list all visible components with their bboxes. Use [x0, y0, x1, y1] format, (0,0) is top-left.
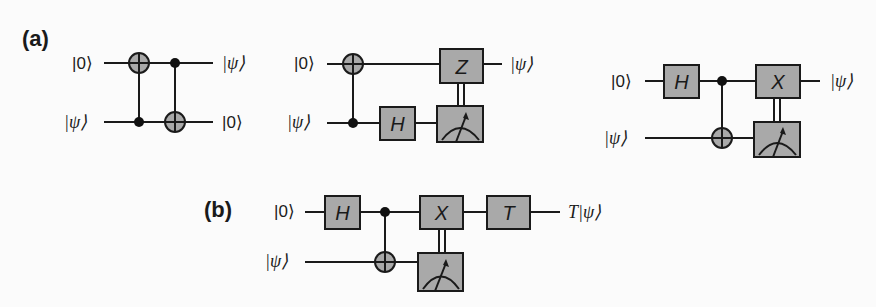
- control-dot-icon: [170, 58, 180, 68]
- output-t-ket-psi: T|ψ⟩: [568, 202, 601, 222]
- input-ket-0: |0⟩: [611, 72, 632, 91]
- input-ket-psi: |ψ⟩: [287, 112, 310, 132]
- panel-label-b: (b): [204, 197, 232, 222]
- quantum-circuit-figure: (a) |0⟩ |ψ⟩ |ψ⟩ |0⟩: [0, 0, 876, 307]
- input-ket-0: |0⟩: [72, 54, 93, 73]
- output-ket-0: |0⟩: [222, 113, 243, 132]
- xor-target-icon: [375, 252, 395, 272]
- circuit-x-correction: |0⟩ |ψ⟩ H X |ψ⟩: [604, 65, 853, 157]
- control-dot-icon: [134, 117, 144, 127]
- input-ket-0: |0⟩: [294, 54, 315, 73]
- panel-label-a: (a): [22, 26, 49, 51]
- x-gate-label: X: [434, 202, 449, 224]
- t-gate-label: T: [502, 202, 516, 224]
- measurement-meter-icon: [754, 122, 800, 157]
- circuit-swap-teleport: |0⟩ |ψ⟩ |ψ⟩ |0⟩: [64, 53, 245, 132]
- measurement-meter-icon: [437, 106, 483, 142]
- input-ket-0: |0⟩: [274, 202, 295, 221]
- xor-target-icon: [712, 128, 732, 148]
- xor-target-icon: [165, 112, 185, 132]
- z-gate-label: Z: [454, 56, 468, 78]
- control-dot-icon: [380, 207, 390, 217]
- hadamard-gate-label: H: [335, 202, 350, 224]
- input-ket-psi: |ψ⟩: [64, 112, 87, 132]
- output-ket-psi: |ψ⟩: [222, 53, 245, 73]
- control-dot-icon: [717, 76, 727, 86]
- hadamard-gate-label: H: [674, 71, 689, 93]
- measurement-meter-icon: [418, 253, 463, 291]
- circuit-t-gate-teleport: |0⟩ |ψ⟩ H X: [265, 196, 601, 291]
- hadamard-gate-label: H: [390, 113, 405, 135]
- figure-canvas: (a) |0⟩ |ψ⟩ |ψ⟩ |0⟩: [0, 0, 876, 307]
- circuit-z-correction: |0⟩ |ψ⟩ H Z |ψ⟩: [287, 49, 533, 142]
- input-ket-psi: |ψ⟩: [265, 251, 288, 271]
- x-gate-label: X: [770, 71, 785, 93]
- output-ket-psi: |ψ⟩: [510, 54, 533, 74]
- input-ket-psi: |ψ⟩: [604, 128, 627, 148]
- xor-target-icon: [129, 53, 149, 73]
- control-dot-icon: [348, 118, 358, 128]
- output-ket-psi: |ψ⟩: [830, 71, 853, 91]
- xor-target-icon: [343, 54, 363, 74]
